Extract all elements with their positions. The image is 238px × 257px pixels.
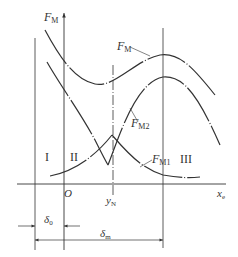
origin-label: O [64, 187, 72, 199]
label-FM: FM [116, 39, 131, 54]
curve-FM [45, 30, 215, 95]
diagram-canvas: FM xe O yN FM FM2 FM1 I II III δ0 δm [0, 0, 238, 257]
leader-FM [130, 47, 150, 56]
x-axis-label: xe [216, 187, 225, 201]
yN-label: yN [105, 194, 116, 208]
force-displacement-diagram: FM xe O yN FM FM2 FM1 I II III δ0 δm [0, 0, 238, 257]
label-FM2: FM2 [130, 116, 149, 131]
leader-FM1 [140, 160, 152, 167]
label-deltam: δm [100, 227, 111, 241]
y-axis-label: FM [43, 10, 58, 25]
region-I: I [45, 150, 49, 164]
label-delta0: δ0 [44, 213, 53, 227]
label-FM1: FM1 [151, 152, 170, 167]
region-II: II [70, 150, 78, 164]
region-III: III [180, 152, 192, 166]
